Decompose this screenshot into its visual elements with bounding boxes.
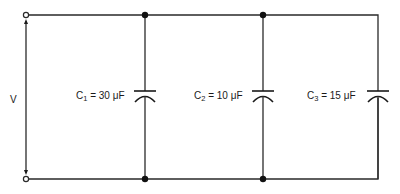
- capacitor-c2-label: C2 = 10 μF: [194, 90, 243, 105]
- c1-unit: μF: [113, 90, 125, 101]
- capacitor-c1: [134, 12, 156, 182]
- bottom-terminal: [23, 176, 28, 181]
- c3-unit: μF: [344, 90, 356, 101]
- capacitor-c2: [252, 12, 274, 182]
- capacitor-c3-label: C3 = 15 μF: [307, 90, 356, 105]
- c2-value: 10: [217, 90, 228, 101]
- top-wire: [28, 15, 378, 91]
- junction-dot: [142, 176, 148, 182]
- c1-equals: =: [90, 90, 96, 101]
- c3-index: 3: [314, 94, 318, 103]
- junction-dot: [142, 12, 148, 18]
- capacitor-c1-label: C1 = 30 μF: [76, 90, 125, 105]
- c2-equals: =: [208, 90, 214, 101]
- bottom-wire: [28, 98, 378, 179]
- c3-equals: =: [321, 90, 327, 101]
- arrow-down-icon: [24, 170, 28, 175]
- c1-value: 30: [99, 90, 110, 101]
- junction-dot: [260, 12, 266, 18]
- voltage-label: V: [10, 94, 17, 106]
- c3-value: 15: [330, 90, 341, 101]
- c2-unit: μF: [231, 90, 243, 101]
- c1-index: 1: [83, 94, 87, 103]
- c2-index: 2: [201, 94, 205, 103]
- arrow-up-icon: [24, 19, 28, 24]
- top-terminal: [23, 12, 28, 17]
- capacitor-c3: [367, 91, 389, 179]
- junction-dot: [260, 176, 266, 182]
